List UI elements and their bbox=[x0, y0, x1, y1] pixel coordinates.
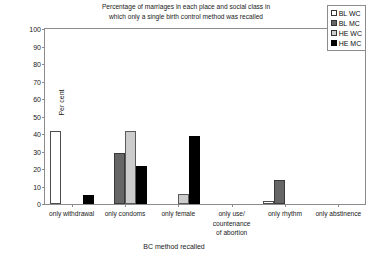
y-axis-tick-label: 30 bbox=[15, 148, 45, 155]
plot-area: Per cent 1009080706050403020100 only wit… bbox=[44, 28, 366, 205]
y-axis-tick-label: 40 bbox=[15, 131, 45, 138]
legend-item: BL MC bbox=[331, 18, 362, 28]
x-axis-tick-mark bbox=[338, 204, 339, 207]
bar bbox=[50, 131, 61, 205]
legend-swatch-icon bbox=[331, 10, 337, 16]
bar bbox=[125, 131, 136, 205]
bar-group bbox=[258, 29, 311, 204]
bar-group bbox=[312, 29, 365, 204]
chart-legend: BL WCBL MCHE WCHE MC bbox=[327, 5, 366, 51]
bar bbox=[274, 180, 285, 205]
y-axis-tick-label: 90 bbox=[15, 43, 45, 50]
chart-title: Percentage of marriages in each place an… bbox=[36, 2, 336, 22]
x-axis-tick-mark bbox=[285, 204, 286, 207]
y-axis-tick-label: 60 bbox=[15, 96, 45, 103]
legend-item-label: HE MC bbox=[339, 40, 362, 47]
y-axis-tick-label: 20 bbox=[15, 166, 45, 173]
bar-group bbox=[205, 29, 258, 204]
legend-swatch-icon bbox=[331, 30, 337, 36]
x-axis-tick-label: only abstinence bbox=[304, 209, 372, 219]
x-axis-tick-mark bbox=[72, 204, 73, 207]
bar-chart-figure: Percentage of marriages in each place an… bbox=[0, 0, 372, 265]
legend-item: HE MC bbox=[331, 38, 362, 48]
bar-group bbox=[45, 29, 98, 204]
bar bbox=[263, 201, 274, 205]
x-axis-title: BC method recalled bbox=[44, 243, 304, 250]
bar bbox=[83, 195, 94, 204]
x-axis-tick-mark bbox=[125, 204, 126, 207]
y-axis-tick-label: 50 bbox=[15, 113, 45, 120]
bars-layer bbox=[45, 29, 365, 204]
legend-swatch-icon bbox=[331, 20, 337, 26]
y-axis-tick-label: 70 bbox=[15, 78, 45, 85]
y-axis-tick-label: 80 bbox=[15, 61, 45, 68]
y-axis-tick-label: 100 bbox=[15, 26, 45, 33]
legend-swatch-icon bbox=[331, 40, 337, 46]
legend-item-label: HE WC bbox=[339, 30, 362, 37]
y-axis-tick-mark bbox=[42, 204, 45, 205]
y-axis-tick-label: 10 bbox=[15, 183, 45, 190]
legend-item: BL WC bbox=[331, 8, 362, 18]
legend-item-label: BL MC bbox=[339, 20, 360, 27]
bar bbox=[178, 194, 189, 205]
x-axis-tick-mark bbox=[232, 204, 233, 207]
bar bbox=[114, 153, 125, 204]
legend-item: HE WC bbox=[331, 28, 362, 38]
bar-group bbox=[152, 29, 205, 204]
bar bbox=[189, 136, 200, 204]
x-axis-tick-mark bbox=[178, 204, 179, 207]
bar-group bbox=[98, 29, 151, 204]
legend-item-label: BL WC bbox=[339, 10, 361, 17]
y-axis-tick-label: 0 bbox=[15, 201, 45, 208]
bar bbox=[136, 166, 147, 205]
